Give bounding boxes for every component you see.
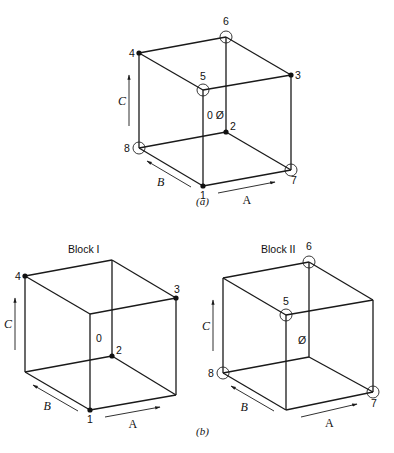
center-point-label: 0 Ø (207, 109, 224, 121)
subfigure-b-block-i: CBA04321 (4, 260, 180, 431)
cube-edge (226, 132, 291, 170)
vertex-label-4: 4 (129, 47, 135, 59)
block-i-title: Block I (68, 243, 100, 255)
b-axis-label: B (241, 400, 249, 414)
cube-edge (25, 276, 90, 314)
vertex-label-7: 7 (371, 397, 377, 409)
filled-point-icon (87, 407, 92, 412)
cube-edge (223, 278, 286, 315)
filled-point-icon (200, 183, 205, 188)
vertex-label-8: 8 (124, 142, 130, 154)
cube-edge (112, 260, 176, 298)
b-axis-label: B (44, 399, 52, 413)
c-axis-label: C (118, 94, 127, 108)
cube-edge (139, 148, 203, 186)
cube-edge (90, 395, 176, 410)
caption-b: (b) (196, 425, 209, 438)
cube-edge (223, 357, 309, 373)
a-axis-arrow-icon (218, 182, 275, 193)
filled-point-icon (223, 129, 228, 134)
cube-edge (139, 132, 226, 148)
caption-a: (a) (196, 195, 209, 208)
a-axis-label: A (243, 193, 252, 207)
vertex-label-6: 6 (306, 240, 312, 252)
a-axis-label: A (129, 417, 138, 431)
factorial-design-cube-diagram: CBA0 Ø46358271 CBA04321 CBAØ6587 (a) (b)… (0, 0, 394, 453)
vertex-label-4: 4 (15, 270, 21, 282)
cube-edge (25, 260, 112, 276)
cube-edge (226, 37, 291, 75)
cube-edge (203, 170, 291, 186)
b-axis-arrow-icon (147, 161, 191, 187)
filled-point-icon (288, 72, 293, 77)
subfigure-a-full-cube: CBA0 Ø46358271 (118, 15, 301, 207)
vertex-label-8: 8 (208, 367, 214, 379)
cube-edge (286, 392, 373, 410)
cube-edge (203, 75, 291, 90)
vertex-label-3: 3 (295, 69, 301, 81)
block-ii-title: Block II (261, 243, 295, 255)
filled-point-icon (109, 353, 114, 358)
vertex-label-6: 6 (223, 15, 229, 27)
c-axis-label: C (4, 317, 13, 331)
vertex-label-2: 2 (230, 120, 236, 132)
filled-point-icon (173, 295, 178, 300)
cube-edge (25, 356, 112, 372)
filled-point-icon (136, 50, 141, 55)
cube-edge (309, 262, 373, 300)
c-axis-label: C (202, 319, 211, 333)
center-point-label: 0 (96, 332, 102, 344)
center-point-label: Ø (298, 334, 306, 346)
cube-edge (139, 53, 203, 90)
cube-edge (223, 373, 286, 410)
a-axis-label: A (325, 416, 334, 430)
vertex-label-2: 2 (116, 344, 122, 356)
cube-edge (309, 357, 373, 392)
cube-edge (223, 262, 309, 278)
filled-point-icon (22, 273, 27, 278)
b-axis-label: B (157, 175, 165, 189)
cube-edge (286, 300, 373, 315)
a-axis-arrow-icon (105, 407, 160, 417)
vertex-label-5: 5 (200, 70, 206, 82)
cube-edge (139, 37, 226, 53)
subfigure-b-block-ii: CBAØ6587 (202, 240, 379, 430)
cube-edge (25, 372, 90, 410)
cube-edge (112, 356, 176, 395)
vertex-label-7: 7 (291, 174, 297, 186)
vertex-label-1: 1 (87, 413, 93, 425)
vertex-label-3: 3 (174, 283, 180, 295)
vertex-label-5: 5 (283, 295, 289, 307)
cube-edge (90, 298, 176, 314)
b-axis-arrow-icon (33, 385, 78, 411)
